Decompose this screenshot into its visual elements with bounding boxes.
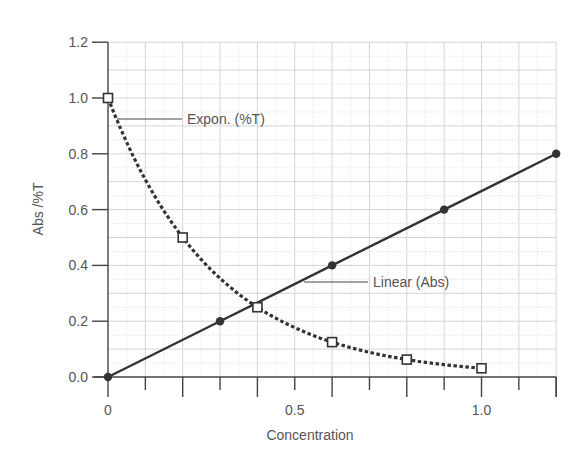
data-point-square bbox=[104, 94, 113, 103]
y-tick-label: 0.0 bbox=[69, 369, 89, 385]
annotations: Expon. (%T) Linear (Abs) bbox=[117, 111, 449, 290]
y-tick-label: 0.4 bbox=[69, 257, 89, 273]
data-point-square bbox=[178, 233, 187, 242]
data-point-circle bbox=[440, 205, 448, 213]
chart: 0.00.20.40.60.81.01.200.51.0 Expon. (%T)… bbox=[0, 0, 580, 463]
data-point-circle bbox=[552, 150, 560, 158]
grid bbox=[108, 42, 556, 377]
y-tick-label: 1.0 bbox=[69, 90, 89, 106]
data-point-square bbox=[253, 303, 262, 312]
y-tick-label: 0.8 bbox=[69, 146, 89, 162]
data-point-square bbox=[477, 364, 486, 373]
x-tick-label: 0.5 bbox=[285, 402, 305, 418]
data-point-circle bbox=[104, 373, 112, 381]
y-axis-title: Abs /%T bbox=[30, 182, 46, 235]
x-tick-label: 1.0 bbox=[472, 402, 492, 418]
expon-annotation-label: Expon. (%T) bbox=[187, 111, 265, 127]
data-point-circle bbox=[328, 261, 336, 269]
x-tick-label: 0 bbox=[104, 402, 112, 418]
y-tick-label: 1.2 bbox=[69, 34, 89, 50]
y-tick-label: 0.6 bbox=[69, 202, 89, 218]
x-axis-title: Concentration bbox=[266, 427, 353, 443]
data-point-square bbox=[328, 338, 337, 347]
y-tick-label: 0.2 bbox=[69, 313, 89, 329]
data-point-circle bbox=[216, 317, 224, 325]
linear-annotation-label: Linear (Abs) bbox=[373, 274, 449, 290]
data-point-square bbox=[402, 355, 411, 364]
